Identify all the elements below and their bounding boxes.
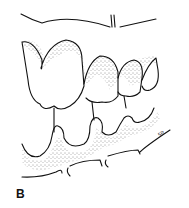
teeth-drawing: 5R [0, 0, 189, 208]
upper-gum-line [21, 14, 156, 27]
panel-label: B [16, 187, 25, 201]
artist-signature: 5R [157, 129, 166, 138]
